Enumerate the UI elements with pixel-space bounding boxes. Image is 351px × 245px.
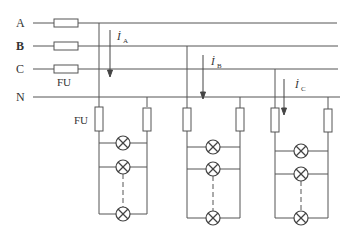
load-fuse-c2-icon xyxy=(324,109,332,132)
line-label-n: N xyxy=(16,90,25,104)
current-arrow-b-icon xyxy=(201,55,206,99)
load-fuse-a2-icon xyxy=(143,108,151,131)
current-a-sub: A xyxy=(123,37,128,45)
fuse-a-icon xyxy=(54,19,78,27)
lamp-icon xyxy=(116,207,130,221)
lamp-icon xyxy=(206,211,220,225)
current-a-symbol: İ xyxy=(116,30,122,42)
fuse-b-icon xyxy=(54,42,78,50)
lamp-icon xyxy=(294,167,308,181)
line-label-b: B xyxy=(16,39,24,53)
lamp-icon xyxy=(116,136,130,150)
load-fuse-label: FU xyxy=(74,114,88,126)
load-fuse-c1-icon xyxy=(271,108,279,132)
lamp-icon xyxy=(116,160,130,174)
load-fuse-b2-icon xyxy=(236,108,244,131)
current-c-sub: C xyxy=(301,85,306,93)
current-b-symbol: İ xyxy=(210,55,216,67)
load-fuse-b1-icon xyxy=(183,108,191,131)
circuit-svg: A B C N FU FU İ A İ B İ C xyxy=(0,0,351,245)
lamp-icon xyxy=(294,211,308,225)
load-fuse-a1-icon xyxy=(95,107,103,131)
line-label-c: C xyxy=(16,62,24,76)
lamp-icon xyxy=(294,144,308,158)
circuit-diagram: A B C N FU FU İ A İ B İ C xyxy=(0,0,351,245)
fuse-c-icon xyxy=(54,65,78,73)
current-c-symbol: İ xyxy=(294,78,300,90)
current-arrow-a-icon xyxy=(108,30,113,77)
lamp-icon xyxy=(206,162,220,176)
current-b-sub: B xyxy=(217,62,222,70)
lamp-icon xyxy=(206,140,220,154)
line-fuse-label: FU xyxy=(57,76,71,88)
line-label-a: A xyxy=(16,16,25,30)
